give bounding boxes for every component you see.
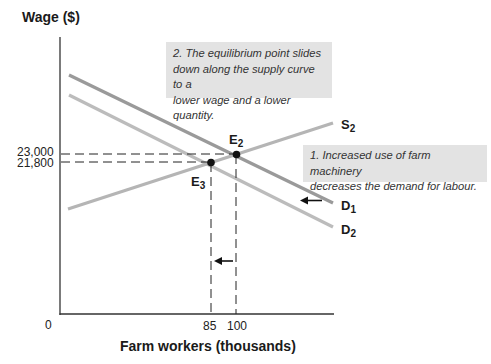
equilibrium-label-e3: E3 [191,174,205,191]
origin-label: 0 [45,318,52,332]
y-tick-21800: 21,800 [17,156,54,170]
x-tick-100: 100 [227,319,247,333]
supply-label-s2: S2 [341,117,355,134]
supply-curve-s2 [68,123,333,209]
equilibrium-label-e2: E2 [229,132,243,149]
y-axis-title: Wage ($) [22,9,80,25]
demand-label-d1: D1 [341,198,356,215]
equilibrium-point-e2 [233,151,241,159]
x-tick-85: 85 [203,319,216,333]
quantity-shift-arrow-icon [214,257,233,265]
demand-curve-d2 [69,95,333,227]
x-axis-title: Farm workers (thousands) [120,338,296,354]
demand-label-d2: D2 [341,222,356,239]
equilibrium-point-e3 [207,159,215,167]
chart-plot [0,0,491,364]
